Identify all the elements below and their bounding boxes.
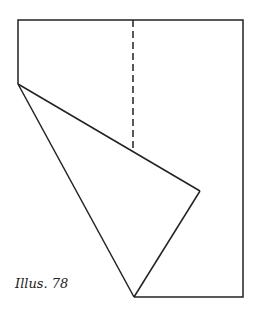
illustration-caption: Illus. 78 xyxy=(15,276,68,291)
upper-fold-edge xyxy=(18,84,200,191)
lower-fold-edge xyxy=(134,191,200,297)
paper-fold-diagram xyxy=(0,0,257,317)
outer-edge xyxy=(18,20,243,297)
left-fold-edge xyxy=(18,84,134,297)
